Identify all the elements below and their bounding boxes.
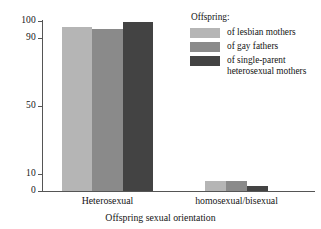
legend-item-label: of single-parent heterosexual mothers [227,55,318,76]
bar-chart-figure: 0105090100 Heterosexualhomosexual/bisexu… [0,0,321,229]
legend-title: Offspring: [190,12,318,23]
legend-color-swatch [190,28,220,38]
x-category-label: homosexual/bisexual [177,195,297,206]
bar [247,186,268,191]
bar [62,27,92,191]
bar [92,29,122,191]
legend: Offspring: of lesbian mothersof gay fath… [190,12,318,79]
legend-item: of lesbian mothers [190,27,318,38]
bar [205,181,226,191]
x-axis-title: Offspring sexual orientation [0,212,321,223]
bar [123,22,153,191]
legend-item-label: of gay fathers [227,41,278,52]
legend-item: of single-parent heterosexual mothers [190,55,318,76]
legend-entries: of lesbian mothersof gay fathersof singl… [190,27,318,76]
legend-item: of gay fathers [190,41,318,52]
x-category-label: Heterosexual [48,195,168,206]
legend-item-label: of lesbian mothers [227,27,296,38]
legend-color-swatch [190,56,220,66]
legend-color-swatch [190,42,220,52]
bar [226,181,247,191]
